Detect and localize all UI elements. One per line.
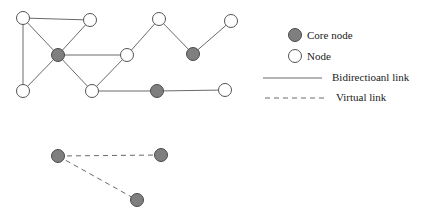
node: [225, 15, 238, 28]
core-node: [52, 49, 65, 62]
legend-core-node-icon: [289, 29, 302, 42]
bidirectional-link: [157, 90, 225, 91]
bidirectional-link: [58, 55, 92, 91]
core-node: [131, 194, 144, 207]
legend-node-icon: [289, 50, 302, 63]
virtual-link: [58, 156, 137, 200]
node: [121, 49, 134, 62]
legend: Core node Node Bidirectioanl link Virtua…: [263, 29, 410, 104]
core-node: [52, 150, 65, 163]
network-diagram: Core node Node Bidirectioanl link Virtua…: [0, 0, 422, 218]
legend-node-label: Node: [307, 50, 331, 62]
node: [86, 85, 99, 98]
virtual-link: [58, 155, 161, 156]
node: [219, 84, 232, 97]
bidirectional-link: [127, 19, 159, 55]
node: [153, 13, 166, 26]
bidirectional-link: [23, 18, 58, 55]
core-node: [187, 48, 200, 61]
bidirectional-link: [193, 21, 231, 54]
bidirectional-link: [159, 19, 193, 54]
legend-virtual-link-label: Virtual link: [336, 91, 387, 103]
bidirectional-link: [58, 20, 90, 55]
node: [17, 12, 30, 25]
legend-core-node-label: Core node: [307, 29, 353, 41]
bidirectional-link: [23, 18, 90, 20]
node: [84, 14, 97, 27]
core-node: [151, 85, 164, 98]
node: [17, 85, 30, 98]
bidirectional-link: [92, 55, 127, 91]
legend-bidirectional-link-label: Bidirectioanl link: [332, 71, 410, 83]
bidirectional-link: [23, 55, 58, 91]
core-node: [155, 149, 168, 162]
links-layer: [23, 18, 231, 200]
nodes-layer: [17, 12, 238, 207]
